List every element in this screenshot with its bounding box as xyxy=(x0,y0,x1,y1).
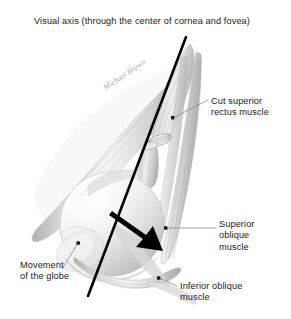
page-title: Visual axis (through the center of corne… xyxy=(34,16,250,27)
dot-cut-superior-rectus xyxy=(171,116,174,119)
dot-superior-oblique xyxy=(164,226,167,229)
label-inferior-oblique-muscle: Inferior oblique muscle xyxy=(180,281,242,304)
eye-muscle-diagram: Visual axis (through the center of corne… xyxy=(0,0,291,319)
label-movement-of-the-globe: Movement of the globe xyxy=(20,260,69,283)
label-superior-oblique-muscle: Superior oblique muscle xyxy=(219,219,255,253)
label-cut-superior-rectus-muscle: Cut superior rectus muscle xyxy=(211,96,269,119)
dot-inferior-oblique xyxy=(157,276,160,279)
dot-movement-of-the-globe xyxy=(77,241,80,244)
